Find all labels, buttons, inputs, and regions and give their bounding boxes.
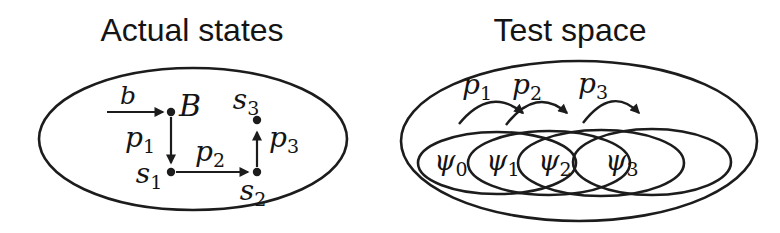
label-p3: p3 [269,121,299,157]
label-s1: s1 [136,157,162,193]
state-s1-dot [167,168,175,176]
actual-states-title: Actual states [100,12,283,48]
figure-canvas: Actual states b B p1 s1 p2 s2 p3 [0,0,780,233]
label-psi3: ψ3 [605,145,638,180]
state-B-dot [167,108,175,116]
label-s3: s3 [233,83,259,119]
hop-p2-arrow [506,102,567,125]
test-space-panel: Test space ψ0 ψ1 ψ2 ψ3 p1 p2 p3 [401,12,757,221]
label-b: b [120,81,136,110]
label-psi1: ψ1 [486,145,519,180]
set-psi3-ellipse [573,129,731,195]
hop-label-p2: p2 [512,68,542,104]
actual-states-panel: Actual states b B p1 s1 p2 s2 p3 [39,12,347,210]
label-psi0: ψ0 [434,145,467,180]
label-psi2: ψ2 [538,145,571,180]
hop-p1-arrow [459,102,523,124]
label-p1: p1 [125,121,155,157]
label-s2: s2 [240,174,266,210]
hop-p3-arrow [583,101,639,123]
hop-label-p3: p3 [578,67,608,103]
test-space-title: Test space [494,12,647,48]
label-B: B [178,88,201,123]
label-p2: p2 [195,135,225,171]
